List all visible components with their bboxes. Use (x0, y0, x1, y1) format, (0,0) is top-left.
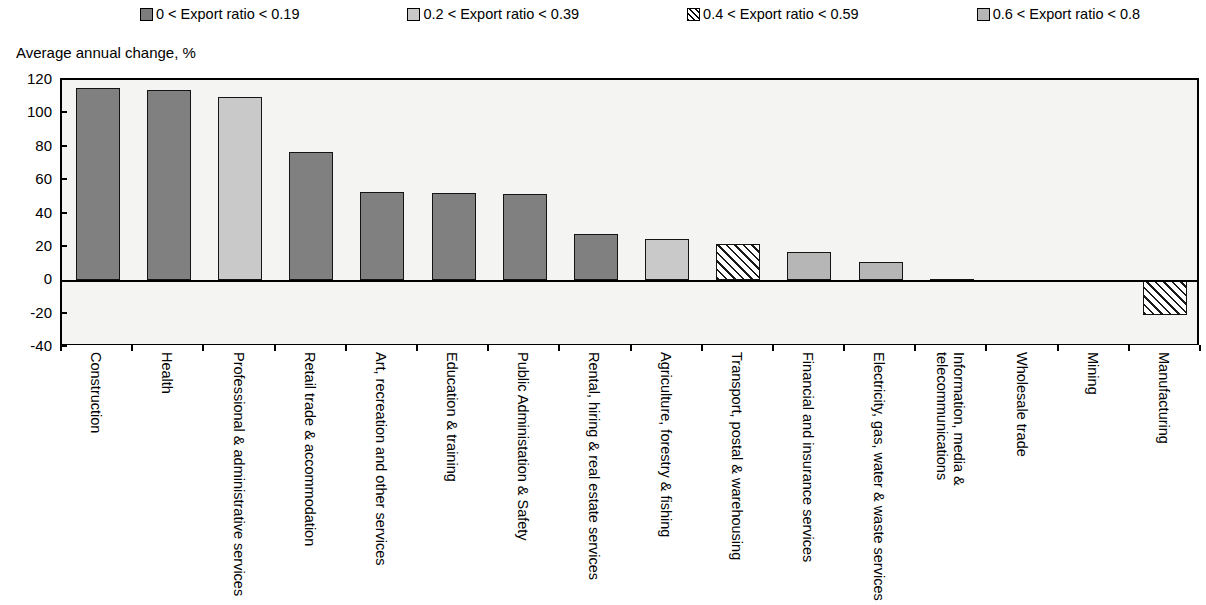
bar-slot (276, 80, 347, 344)
bar (716, 244, 760, 281)
x-axis-label-slot: Agriculture, forestry & fishing (630, 350, 701, 605)
x-axis-category-label: Health (158, 352, 175, 394)
y-axis-tick-labels: 120100806040200-20-40 (0, 78, 52, 345)
legend-swatch-light-icon (407, 8, 420, 21)
x-axis-category-label: Construction (87, 352, 104, 433)
bar-slot (774, 80, 845, 344)
x-axis-category-label: Transport, postal & warehousing (728, 352, 745, 560)
bar-slot (62, 80, 133, 344)
chart-legend: 0 < Export ratio < 0.19 0.2 < Export rat… (78, 0, 1198, 28)
x-axis-category-label: Public Administation & Safety (514, 352, 531, 541)
y-axis-tick-label: 60 (6, 171, 52, 186)
x-axis-label-slot: Mining (1057, 350, 1128, 605)
legend-label-0: 0 < Export ratio < 0.19 (156, 6, 299, 22)
x-axis-tick-mark (487, 345, 489, 351)
legend-swatch-dark-icon (140, 8, 153, 21)
legend-label-3: 0.6 < Export ratio < 0.8 (993, 6, 1141, 22)
y-axis-tick-marks (60, 78, 70, 345)
chart-root: 0 < Export ratio < 0.19 0.2 < Export rat… (0, 0, 1206, 605)
x-axis-category-label: Financial and insurance services (799, 352, 816, 562)
x-axis-tick-mark (701, 345, 703, 351)
x-axis-tick-mark (630, 345, 632, 351)
y-axis-tick-label: 40 (6, 204, 52, 219)
y-axis-tick-label: -20 (6, 304, 52, 319)
x-axis-tick-mark (985, 345, 987, 351)
x-axis-label-slot: Manufacturing (1128, 350, 1199, 605)
x-axis-tick-mark (558, 345, 560, 351)
bar-slot (1059, 80, 1130, 344)
bar (76, 88, 120, 280)
bar (503, 194, 547, 280)
y-axis-tick-mark (60, 212, 67, 214)
bar-slot (916, 80, 987, 344)
x-axis-category-label: Rental, hiring & real estate services (585, 352, 602, 580)
x-axis-tick-mark (1128, 345, 1130, 351)
y-axis-tick-mark (60, 111, 67, 113)
bar-slot (418, 80, 489, 344)
x-axis-tick-mark (1057, 345, 1059, 351)
x-axis-label-slot: Financial and insurance services (772, 350, 843, 605)
y-axis-tick-mark (60, 178, 67, 180)
x-axis-tick-mark (60, 345, 62, 351)
x-axis-tick-mark (131, 345, 133, 351)
bar (645, 239, 689, 280)
x-axis-category-label: Agriculture, forestry & fishing (657, 352, 674, 537)
x-axis-label-slot: Rental, hiring & real estate services (558, 350, 629, 605)
x-axis-label-slot: Information, media & telecommunications (914, 350, 985, 605)
y-axis-tick-label: 100 (6, 104, 52, 119)
x-axis-category-label: Education & training (443, 352, 460, 482)
bar (574, 234, 618, 280)
x-axis-category-label: Art, recreation and other services (372, 352, 389, 566)
bar-slot (987, 80, 1058, 344)
y-axis-title: Average annual change, % (16, 44, 196, 61)
x-axis-label-slot: Electricity, gas, water & waste services (843, 350, 914, 605)
bar-slot (703, 80, 774, 344)
x-axis-tick-mark (274, 345, 276, 351)
bar-slot (133, 80, 204, 344)
y-axis-tick-mark (60, 145, 67, 147)
legend-swatch-hatch-icon (687, 8, 700, 21)
bar (787, 252, 831, 280)
bar-slot (560, 80, 631, 344)
y-axis-tick-mark (60, 312, 67, 314)
bar (147, 90, 191, 280)
legend-item-0: 0 < Export ratio < 0.19 (140, 6, 299, 22)
x-axis-category-label: Wholesale trade (1012, 352, 1029, 457)
x-axis-label-slot: Education & training (416, 350, 487, 605)
x-axis-tick-marks (60, 345, 1199, 352)
x-axis-tick-mark (914, 345, 916, 351)
bar (218, 97, 262, 281)
bar (432, 193, 476, 281)
zero-baseline (62, 280, 1197, 282)
x-axis-category-label: Mining (1084, 352, 1101, 395)
x-axis-tick-mark (843, 345, 845, 351)
x-axis-label-slot: Transport, postal & warehousing (701, 350, 772, 605)
x-axis-category-label: Manufacturing (1155, 352, 1172, 444)
x-axis-category-labels: ConstructionHealthProfessional & adminis… (60, 350, 1199, 605)
x-axis-category-label: Professional & administrative services (229, 352, 246, 596)
x-axis-label-slot: Public Administation & Safety (487, 350, 558, 605)
x-axis-tick-mark (416, 345, 418, 351)
x-axis-tick-mark (1199, 345, 1201, 351)
x-axis-category-label: Information, media & telecommunications (933, 352, 967, 602)
x-axis-tick-mark (202, 345, 204, 351)
x-axis-label-slot: Construction (60, 350, 131, 605)
x-axis-tick-mark (772, 345, 774, 351)
bar-slot (204, 80, 275, 344)
legend-label-1: 0.2 < Export ratio < 0.39 (423, 6, 579, 22)
bar-slot (632, 80, 703, 344)
y-axis-tick-label: 0 (6, 271, 52, 286)
plot-area (60, 78, 1199, 345)
legend-item-3: 0.6 < Export ratio < 0.8 (977, 6, 1141, 22)
x-axis-category-label: Electricity, gas, water & waste services (870, 352, 887, 601)
x-axis-label-slot: Professional & administrative services (202, 350, 273, 605)
y-axis-tick-label: 20 (6, 237, 52, 252)
x-axis-label-slot: Wholesale trade (985, 350, 1056, 605)
y-axis-tick-label: 120 (6, 71, 52, 86)
y-axis-tick-label: 80 (6, 137, 52, 152)
x-axis-label-slot: Health (131, 350, 202, 605)
x-axis-category-label: Retail trade & accommodation (301, 352, 318, 546)
bar (360, 192, 404, 280)
bar-slot (489, 80, 560, 344)
bar-slot (1130, 80, 1201, 344)
